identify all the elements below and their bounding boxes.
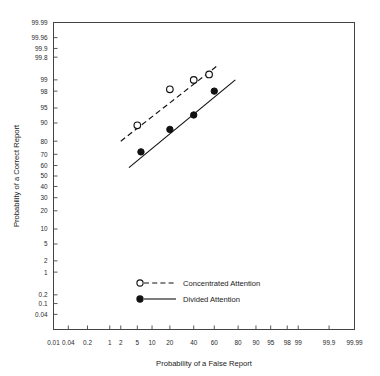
y-tick-label: 90: [40, 119, 48, 126]
y-tick-label: 0.1: [39, 300, 48, 307]
x-tick-label: 40: [190, 339, 198, 346]
y-tick-label: 80: [40, 138, 48, 145]
y-tick-label: 95: [40, 104, 48, 111]
data-point: [190, 77, 197, 84]
data-point: [138, 149, 144, 155]
chart-canvas: 99.9999.9699.999.89998959080706050403020…: [0, 0, 380, 376]
data-point: [167, 86, 174, 93]
y-tick-label: 10: [40, 225, 48, 232]
y-tick-label: 98: [40, 88, 48, 95]
probability-plot: 99.9999.9699.999.89998959080706050403020…: [0, 0, 380, 376]
data-point: [206, 71, 213, 78]
x-tick-label: 20: [166, 339, 174, 346]
data-point: [134, 122, 141, 129]
x-tick-label: 0.01: [47, 339, 60, 346]
x-tick-label: 5: [136, 339, 140, 346]
x-tick-label: 0.2: [83, 339, 92, 346]
data-point: [191, 112, 197, 118]
data-point: [167, 126, 173, 132]
x-tick-label: 2: [119, 339, 123, 346]
y-tick-label: 20: [40, 207, 48, 214]
x-tick-label: 0.04: [62, 339, 75, 346]
chart-background: [0, 0, 380, 376]
open-circle-icon: [137, 280, 143, 286]
legend-label: Divided Attention: [183, 295, 240, 304]
y-tick-label: 30: [40, 194, 48, 201]
y-tick-label: 99.96: [32, 34, 48, 41]
x-tick-label: 80: [235, 339, 243, 346]
y-tick-label: 0.04: [35, 311, 48, 318]
y-tick-label: 0.2: [39, 291, 48, 298]
y-tick-label: 50: [40, 172, 48, 179]
y-tick-label: 99: [40, 76, 48, 83]
x-tick-label: 99.99: [347, 339, 363, 346]
x-tick-label: 90: [252, 339, 260, 346]
y-tick-label: 99.99: [32, 19, 48, 26]
x-tick-label: 98: [284, 339, 292, 346]
y-tick-label: 5: [44, 240, 48, 247]
y-axis-title: Probability of a Correct Report: [12, 124, 21, 227]
data-point: [211, 88, 217, 94]
legend-label: Concentrated Attention: [183, 279, 260, 288]
x-tick-label: 1: [108, 339, 112, 346]
y-tick-label: 40: [40, 183, 48, 190]
y-tick-label: 99.9: [35, 45, 48, 52]
x-tick-label: 10: [148, 339, 156, 346]
y-tick-label: 70: [40, 151, 48, 158]
x-tick-label: 60: [211, 339, 219, 346]
x-tick-label: 95: [267, 339, 275, 346]
y-tick-label: 60: [40, 162, 48, 169]
y-tick-label: 99.8: [35, 54, 48, 61]
filled-circle-icon: [137, 296, 143, 302]
y-tick-label: 1: [44, 269, 48, 276]
x-axis-title: Probability of a False Report: [156, 359, 253, 368]
y-tick-label: 2: [44, 257, 48, 264]
x-tick-label: 99: [295, 339, 303, 346]
x-tick-label: 99.9: [323, 339, 336, 346]
